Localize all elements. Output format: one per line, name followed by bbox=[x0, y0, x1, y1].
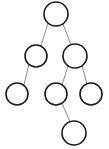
tree-node-n4 bbox=[6, 83, 28, 105]
tree-edge-n3-n5 bbox=[62, 66, 68, 85]
tree-edge-n1-n2 bbox=[41, 23, 48, 46]
tree-diagram-figure bbox=[0, 0, 109, 149]
tree-node-n5 bbox=[45, 83, 67, 105]
edge-layer bbox=[24, 23, 87, 122]
tree-edge-n3-n6 bbox=[82, 66, 87, 84]
tree-node-n3 bbox=[63, 44, 87, 68]
tree-node-n1 bbox=[44, 2, 68, 26]
tree-edge-n1-n3 bbox=[63, 24, 71, 45]
tree-edge-n2-n4 bbox=[24, 64, 29, 85]
tree-node-n7 bbox=[62, 121, 86, 145]
tree-edge-n5-n7 bbox=[62, 103, 70, 122]
tree-node-n2 bbox=[25, 45, 47, 67]
tree-node-n6 bbox=[80, 83, 102, 105]
tree-diagram-canvas bbox=[0, 0, 109, 149]
node-layer bbox=[6, 2, 102, 145]
